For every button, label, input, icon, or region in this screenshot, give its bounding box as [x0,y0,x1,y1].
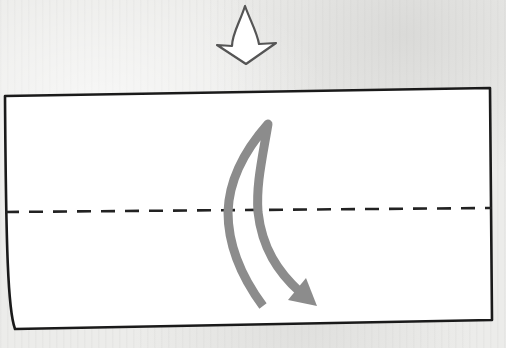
fold-diagram [0,0,506,348]
hollow-down-arrow-icon [217,6,276,64]
